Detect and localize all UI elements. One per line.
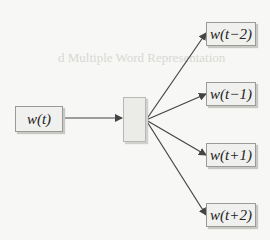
projection-box bbox=[123, 97, 146, 142]
arrow-to-w-t-plus-1 bbox=[146, 120, 206, 155]
output-word-label: w(t−1) bbox=[210, 86, 252, 103]
output-word-label: w(t+2) bbox=[210, 207, 252, 224]
output-word-box-t-plus-2: w(t+2) bbox=[206, 203, 256, 227]
output-word-box-t-minus-2: w(t−2) bbox=[206, 22, 256, 46]
output-word-label: w(t−2) bbox=[210, 26, 252, 43]
input-word-box: w(t) bbox=[15, 106, 63, 132]
input-word-label: w(t) bbox=[27, 111, 51, 128]
arrow-to-w-t-plus-2 bbox=[146, 120, 206, 215]
output-word-box-t-plus-1: w(t+1) bbox=[206, 143, 256, 167]
output-word-label: w(t+1) bbox=[210, 147, 252, 164]
output-word-box-t-minus-1: w(t−1) bbox=[206, 82, 256, 106]
